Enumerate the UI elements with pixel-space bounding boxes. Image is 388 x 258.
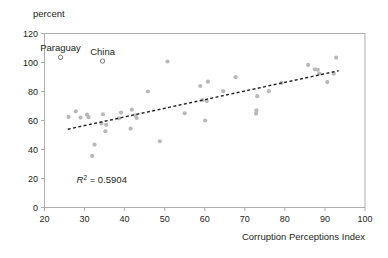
data-point [78, 116, 82, 120]
data-point [86, 115, 90, 119]
data-point [254, 108, 258, 112]
chart-canvas: percent 020406080100120 2030405060708090… [0, 0, 388, 258]
data-point [165, 59, 169, 63]
y-axis-unit-label-group: percent [33, 8, 65, 19]
data-point [334, 56, 338, 60]
data-point [101, 112, 105, 116]
data-point [90, 154, 94, 158]
data-point [183, 111, 187, 115]
scatter-chart: percent 020406080100120 2030405060708090… [0, 0, 388, 258]
x-axis-tick-group: 2030405060708090100 [39, 208, 372, 224]
highlighted-data-point [100, 59, 104, 63]
x-tick-label: 80 [280, 214, 290, 224]
data-point [92, 143, 96, 147]
data-point [316, 68, 320, 72]
y-tick-label: 80 [28, 87, 38, 97]
annotation-group: R2 = 0.5904 [77, 174, 127, 185]
data-point [206, 80, 210, 84]
data-point [135, 116, 139, 120]
y-tick-label: 0 [33, 203, 38, 213]
y-tick-label: 40 [28, 145, 38, 155]
x-tick-label: 50 [160, 214, 170, 224]
data-point [255, 94, 259, 98]
data-point [130, 108, 134, 112]
data-point [119, 110, 123, 114]
data-point [306, 63, 310, 67]
y-tick-label: 20 [28, 174, 38, 184]
data-point [74, 109, 78, 113]
y-tick-label: 100 [23, 58, 38, 68]
data-point [129, 127, 133, 131]
x-tick-label: 70 [240, 214, 250, 224]
data-point-label: China [90, 46, 116, 57]
y-axis-tick-group: 020406080100120 [23, 29, 45, 213]
data-point [104, 123, 108, 127]
data-points-group [66, 56, 338, 158]
data-point [267, 89, 271, 93]
data-point [325, 80, 329, 84]
highlighted-points-group: ParaguayChina [40, 42, 116, 63]
x-tick-label: 30 [80, 214, 90, 224]
y-tick-label: 120 [23, 29, 38, 39]
x-tick-label: 20 [39, 214, 49, 224]
data-point [221, 89, 225, 93]
data-point [103, 129, 107, 133]
x-tick-label: 60 [200, 214, 210, 224]
y-axis-unit-label: percent [33, 8, 65, 19]
y-tick-label: 60 [28, 116, 38, 126]
data-point [203, 118, 207, 122]
data-point [234, 75, 238, 79]
data-point [66, 115, 70, 119]
data-point [146, 89, 150, 93]
x-tick-label: 100 [357, 214, 372, 224]
x-tick-label: 90 [320, 214, 330, 224]
data-point [158, 139, 162, 143]
r-squared-annotation: R2 = 0.5904 [77, 174, 127, 185]
x-tick-label: 40 [120, 214, 130, 224]
highlighted-data-point [58, 55, 62, 59]
data-point [198, 84, 202, 88]
x-axis-title: Corruption Perceptions Index [242, 231, 365, 242]
data-point-label: Paraguay [40, 42, 81, 53]
